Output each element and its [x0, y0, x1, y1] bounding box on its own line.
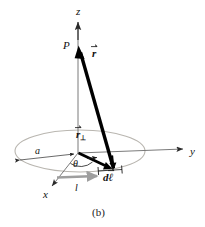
dl-vector-label: dℓ — [103, 172, 113, 183]
figure-caption: (b) — [92, 207, 105, 218]
dl-base: dℓ — [103, 172, 113, 183]
r-perp-vector-label: r ⊥ — [76, 129, 86, 142]
field-point-label: P — [63, 40, 70, 51]
r-vector-shaft — [81, 53, 114, 169]
figure-drawing — [0, 0, 205, 227]
y-axis-label: y — [190, 146, 195, 157]
radius-label: a — [35, 146, 40, 156]
dl-measure-tick-right — [122, 166, 123, 174]
x-axis-label: x — [43, 189, 48, 200]
r-vector-base: r — [92, 48, 96, 59]
dl-measure-tick-left — [98, 167, 99, 175]
r-vector-label: r — [92, 48, 96, 59]
y-axis-line — [78, 149, 183, 153]
current-direction-arrow — [57, 176, 97, 178]
radius-indicator — [20, 154, 74, 160]
r-perp-base: r — [76, 129, 80, 140]
r-perp-vector-shaft — [79, 153, 106, 166]
figure-container: z y x P r r ⊥ — [0, 0, 205, 227]
r-vector-head — [75, 46, 85, 60]
dl-accent-wrap: dℓ — [103, 172, 113, 183]
current-label: l — [75, 183, 78, 193]
r-vector-accent-wrap: r — [92, 48, 96, 59]
r-perp-subscript: ⊥ — [80, 134, 86, 142]
r-perp-accent-wrap: r — [76, 129, 80, 140]
z-axis-label: z — [76, 6, 80, 17]
angle-label: θ — [73, 159, 78, 169]
